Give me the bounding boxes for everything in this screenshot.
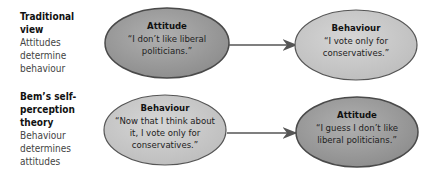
node-quote: “I guess I don’t like liberal politician… [305,122,409,146]
node-heading: Behaviour [112,102,218,114]
node-quote: “I vote only for conservatives.” [306,35,406,59]
node-heading: Attitude [305,109,409,121]
node-quote: “I don’t like liberal politicians.” [117,33,217,57]
node-behaviour-bem: Behaviour “Now that I think about it, I … [112,102,218,151]
node-attitude-bem: Attitude “I guess I don’t like liberal p… [305,109,409,146]
node-heading: Behaviour [306,22,406,34]
node-attitude-traditional: Attitude “I don’t like liberal politicia… [117,20,217,57]
node-quote: “Now that I think about it, I vote only … [112,115,218,151]
node-behaviour-traditional: Behaviour “I vote only for conservatives… [306,22,406,59]
node-heading: Attitude [117,20,217,32]
